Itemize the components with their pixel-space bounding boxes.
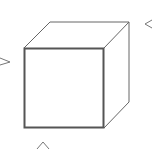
right-view-arrow-icon bbox=[145, 20, 152, 28]
cube-right-edges bbox=[104, 22, 129, 128]
cube-front-face bbox=[25, 49, 104, 128]
cube-diagram bbox=[0, 0, 152, 149]
left-view-arrow-icon bbox=[0, 58, 10, 65]
cube-top-edges bbox=[24, 22, 129, 48]
bottom-view-arrow-icon bbox=[37, 142, 49, 149]
cube bbox=[24, 22, 129, 128]
